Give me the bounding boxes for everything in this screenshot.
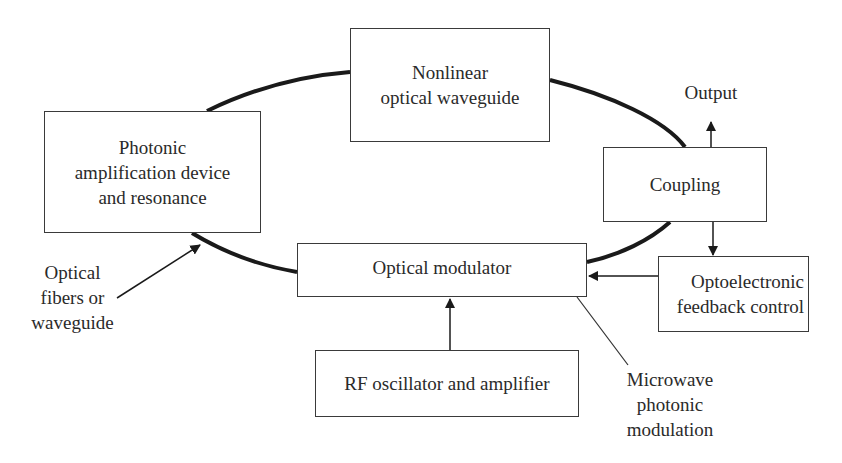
rf-oscillator-box: RF oscillator and amplifier: [315, 350, 579, 417]
loop-nonlinear-to-coupling: [550, 80, 685, 147]
optical-fibers-label: Opticalfibers orwaveguide: [20, 260, 125, 335]
loop-modulator-to-photonic: [192, 233, 297, 272]
loop-photonic-to-nonlinear: [207, 72, 350, 111]
microwave-leader-line: [577, 297, 628, 365]
optical-modulator-box: Optical modulator: [297, 243, 587, 297]
output-label: Output: [676, 80, 746, 105]
fibers-input-arrow: [117, 245, 200, 298]
photonic-amplification-box: Photonicamplification deviceand resonanc…: [44, 111, 261, 233]
optoelectronic-feedback-box: Optoelectronicfeedback control: [658, 256, 809, 332]
nonlinear-waveguide-box: Nonlinearoptical waveguide: [350, 28, 550, 142]
microwave-photonic-label: Microwavephotonicmodulation: [615, 367, 725, 442]
coupling-box: Coupling: [603, 147, 767, 222]
